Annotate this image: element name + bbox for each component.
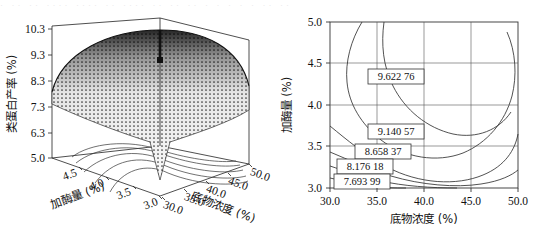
x-tick-0: 4.5 (61, 166, 79, 182)
svg-text:8.176 18: 8.176 18 (347, 161, 384, 172)
contour-y-axis-title: 加酶量 (%) (280, 77, 294, 134)
surface-plot-panel: 10.3 9.3 8.3 7.3 6.3 5.0 类蛋白产率 (%) 4.5 4… (0, 0, 271, 234)
contour-x-tick-3: 45.0 (461, 195, 481, 207)
contour-label-8_176_18: 8.176 18 (337, 159, 393, 174)
svg-text:8.658 37: 8.658 37 (365, 146, 402, 157)
contour-y-tick-2: 4.0 (308, 99, 323, 111)
contour-x-tick-2: 40.0 (414, 195, 434, 207)
contour-y-tick-1: 3.5 (308, 140, 323, 152)
x-axis-title: 加酶量 (%) (49, 179, 107, 212)
svg-text:9.140 57: 9.140 57 (378, 126, 415, 137)
contour-label-7_693_99: 7.693 99 (334, 174, 390, 189)
contour-x-axis-title: 底物浓度 (%) (390, 212, 458, 226)
z-tick-0: 10.3 (25, 23, 45, 35)
svg-text:7.693 99: 7.693 99 (344, 176, 381, 187)
contour-label-9_622_76: 9.622 76 (368, 69, 424, 84)
contour-label-8_658_37: 8.658 37 (355, 144, 411, 159)
contour-x-tick-4: 50.0 (508, 195, 528, 207)
surface-plot-svg: 10.3 9.3 8.3 7.3 6.3 5.0 类蛋白产率 (%) 4.5 4… (0, 0, 271, 234)
contour-x-tick-0: 30.0 (320, 195, 340, 207)
y-axis-substrate: 30.0 35.0 40.0 45.0 50.0 底物浓度 (%) (162, 164, 271, 225)
y-tick-3: 45.0 (227, 174, 250, 192)
contour-y-tick-4: 5.0 (308, 16, 323, 28)
x-axis-enzyme: 4.5 4.0 3.5 3.0 加酶量 (%) (49, 166, 162, 211)
x-tick-3: 3.0 (142, 195, 160, 211)
z-tick-5: 5.0 (31, 152, 46, 164)
contour-label-9_140_57: 9.140 57 (368, 124, 424, 139)
svg-text:9.622 76: 9.622 76 (378, 71, 415, 82)
y-tick-0: 30.0 (162, 198, 185, 216)
contour-x-tick-1: 35.0 (367, 195, 387, 207)
z-tick-3: 7.3 (31, 101, 46, 113)
z-axis: 10.3 9.3 8.3 7.3 6.3 5.0 类蛋白产率 (%) (5, 23, 52, 164)
z-axis-title: 类蛋白产率 (%) (5, 55, 19, 134)
contour-y-tick-3: 4.5 (308, 57, 323, 69)
contour-y-axis: 3.0 3.5 4.0 4.5 5.0 加酶量 (%) (280, 16, 330, 194)
z-tick-1: 9.3 (31, 49, 46, 61)
figure-root: · ·· ·· ···· ···· ·· ···· ·· ·· ·· · · ·… (0, 0, 542, 234)
response-surface-mesh (52, 30, 249, 180)
x-tick-2: 3.5 (115, 185, 133, 201)
z-tick-4: 6.3 (31, 127, 46, 139)
contour-plot-svg: 9.622 76 9.140 57 8.658 37 8.176 18 7.69… (271, 0, 542, 234)
y-tick-4: 50.0 (249, 165, 271, 183)
z-tick-2: 8.3 (31, 75, 46, 87)
contour-plot-panel: 9.622 76 9.140 57 8.658 37 8.176 18 7.69… (271, 0, 542, 234)
contour-x-axis: 30.0 35.0 40.0 45.0 50.0 底物浓度 (%) (320, 188, 528, 226)
contour-y-tick-0: 3.0 (308, 182, 323, 194)
